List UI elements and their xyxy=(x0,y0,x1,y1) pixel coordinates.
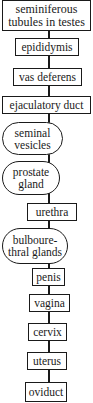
node-label: uterus xyxy=(33,355,61,367)
node-oviduct: oviduct xyxy=(25,382,67,402)
node-label-line2: tubules in testes xyxy=(8,16,85,29)
node-label-line1: prostate xyxy=(13,166,49,178)
node-bulbourethral-glands: bulboure- thral glands xyxy=(2,228,68,264)
node-label-line2: gland xyxy=(18,178,44,190)
node-vas-deferens: vas deferens xyxy=(13,68,82,86)
node-label: cervix xyxy=(33,326,62,338)
node-label: urethra xyxy=(36,206,69,218)
node-label-line1: bulboure- xyxy=(13,234,58,246)
node-label-line1: seminiferous xyxy=(16,3,78,16)
node-uterus: uterus xyxy=(27,352,67,370)
node-label-line2: vesicles xyxy=(14,139,50,151)
node-label: penis xyxy=(36,271,60,283)
node-seminal-vesicles: seminal vesicles xyxy=(2,122,63,155)
node-ejaculatory-duct: ejaculatory duct xyxy=(2,96,91,114)
node-label: vas deferens xyxy=(19,71,76,83)
node-prostate-gland: prostate gland xyxy=(2,161,60,195)
node-label: ejaculatory duct xyxy=(10,99,84,111)
node-label-line2: thral glands xyxy=(8,246,62,258)
node-label: epididymis xyxy=(21,41,72,53)
node-seminiferous-tubules: seminiferous tubules in testes xyxy=(2,0,91,31)
node-cervix: cervix xyxy=(28,323,67,341)
node-label: vagina xyxy=(34,297,65,309)
node-epididymis: epididymis xyxy=(15,38,79,56)
node-penis: penis xyxy=(32,268,65,286)
node-vagina: vagina xyxy=(29,294,70,312)
node-urethra: urethra xyxy=(27,203,77,221)
node-label-line1: seminal xyxy=(15,127,51,139)
node-label: oviduct xyxy=(29,386,64,398)
